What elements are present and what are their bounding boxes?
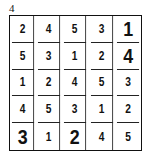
grid-cell: 5 — [12, 43, 34, 70]
grid-cell: 1 — [12, 70, 34, 97]
grid-cell: 1 — [38, 123, 60, 150]
grid-cell: 1 — [91, 96, 113, 123]
grid-cell: 2 — [38, 70, 60, 97]
grid-cell: 2 — [12, 16, 34, 43]
grid-cell: 2 — [91, 43, 113, 70]
grid-cell-emphasized: 4 — [117, 43, 139, 70]
grid-cell: 5 — [38, 96, 60, 123]
grid-cell: 4 — [91, 123, 113, 150]
grid-cell: 5 — [91, 70, 113, 97]
grid-cell-emphasized: 2 — [64, 123, 86, 150]
grid-cell: 4 — [64, 70, 86, 97]
grid-cell-emphasized: 1 — [117, 16, 139, 43]
grid-cell: 3 — [91, 16, 113, 43]
puzzle-number-label: 4 — [9, 2, 15, 14]
grid-cell: 3 — [38, 43, 60, 70]
grid-cell-emphasized: 3 — [12, 123, 34, 150]
number-grid: 2 4 5 3 1 5 3 1 2 4 1 2 4 5 3 4 5 3 1 2 … — [9, 15, 142, 151]
grid-cell: 5 — [64, 16, 86, 43]
grid-cell: 1 — [64, 43, 86, 70]
grid-cell: 2 — [117, 96, 139, 123]
grid-cell: 4 — [38, 16, 60, 43]
grid-cell: 4 — [12, 96, 34, 123]
grid-cell: 3 — [117, 70, 139, 97]
grid-cell: 3 — [64, 96, 86, 123]
grid-cell: 5 — [117, 123, 139, 150]
